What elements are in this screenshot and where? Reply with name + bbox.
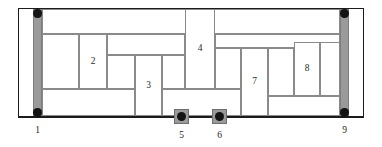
- cell-label-7: 7: [241, 77, 268, 87]
- support-5: [174, 109, 189, 124]
- node-bottom-left: [33, 108, 41, 116]
- partition-cell-cell-j: [268, 96, 340, 116]
- support-6: [212, 109, 227, 124]
- structural-partition-diagram: 23478 1569: [0, 0, 382, 147]
- partition-cell-cell-e: [162, 55, 185, 89]
- support-5-pin-icon: [177, 112, 186, 121]
- partition-cell-cell-g: [215, 48, 241, 89]
- support-6-pin-icon: [215, 112, 224, 121]
- left-edge-column: [33, 9, 42, 117]
- cell-label-8: 8: [294, 64, 320, 74]
- partition-cell-cell-c: [107, 34, 185, 55]
- callout-9: 9: [325, 126, 365, 136]
- partition-cell-cell-k: [42, 89, 135, 116]
- cell-label-3: 3: [135, 81, 162, 91]
- partition-cell-cell-b: [42, 34, 79, 89]
- node-bottom-right: [340, 108, 348, 116]
- cell-label-4: 4: [185, 44, 215, 54]
- partition-cell-cell-h: [268, 48, 294, 96]
- callout-6: 6: [200, 131, 240, 141]
- callout-5: 5: [162, 131, 202, 141]
- panel-base-line: [18, 116, 364, 117]
- node-top-right: [340, 9, 348, 17]
- callout-1: 1: [18, 126, 58, 136]
- partition-cell-cell-i: [320, 42, 340, 96]
- node-top-left: [33, 9, 41, 17]
- partition-cell-cell-d: [107, 55, 135, 89]
- cell-label-2: 2: [79, 57, 107, 67]
- right-edge-column: [340, 9, 349, 117]
